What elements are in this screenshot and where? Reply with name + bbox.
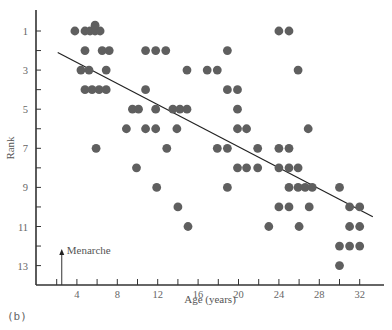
y-axis-title: Rank bbox=[4, 136, 16, 160]
y-tick-label: 1 bbox=[23, 26, 28, 37]
x-tick-label: 8 bbox=[115, 289, 120, 300]
menarche-annotation: Menarche bbox=[59, 244, 111, 285]
data-point bbox=[85, 66, 94, 75]
y-tick-label: 5 bbox=[23, 104, 28, 115]
data-point bbox=[285, 183, 294, 192]
y-tick-label: 7 bbox=[23, 143, 28, 154]
data-point bbox=[285, 163, 294, 172]
data-point bbox=[242, 163, 251, 172]
axes: 13579111348121620242832 bbox=[18, 10, 385, 300]
data-point bbox=[141, 124, 150, 133]
y-tick-label: 11 bbox=[18, 222, 28, 233]
data-point bbox=[223, 144, 232, 153]
data-point bbox=[233, 124, 242, 133]
data-point bbox=[102, 66, 111, 75]
data-point bbox=[141, 46, 150, 55]
data-point bbox=[285, 203, 294, 212]
data-point bbox=[242, 124, 251, 133]
data-point bbox=[162, 144, 171, 153]
data-point bbox=[223, 183, 232, 192]
x-tick-label: 4 bbox=[74, 289, 80, 300]
data-point bbox=[213, 66, 222, 75]
data-point bbox=[285, 27, 294, 36]
data-point bbox=[161, 46, 170, 55]
data-point bbox=[294, 163, 303, 172]
data-points bbox=[70, 21, 364, 270]
arrow-up-icon bbox=[59, 249, 64, 255]
data-point bbox=[172, 124, 181, 133]
data-point bbox=[77, 66, 86, 75]
data-point bbox=[122, 124, 131, 133]
data-point bbox=[233, 163, 242, 172]
data-point bbox=[151, 105, 160, 114]
y-tick-label: 9 bbox=[23, 182, 28, 193]
data-point bbox=[275, 27, 284, 36]
data-point bbox=[102, 85, 111, 94]
data-point bbox=[184, 222, 193, 231]
trend-line bbox=[58, 53, 373, 217]
data-point bbox=[275, 203, 284, 212]
data-point bbox=[92, 144, 101, 153]
data-point bbox=[151, 46, 160, 55]
data-point bbox=[253, 163, 262, 172]
data-point bbox=[70, 27, 79, 36]
data-point bbox=[105, 46, 114, 55]
menarche-label: Menarche bbox=[67, 244, 111, 256]
y-tick-label: 13 bbox=[18, 261, 29, 272]
data-point bbox=[213, 144, 222, 153]
data-point bbox=[285, 144, 294, 153]
data-point bbox=[275, 144, 284, 153]
x-tick-label: 32 bbox=[354, 289, 365, 300]
data-point bbox=[223, 46, 232, 55]
data-point bbox=[223, 85, 232, 94]
scatter-chart: Menarche 13579111348121620242832 Age (ye… bbox=[0, 0, 392, 310]
data-point bbox=[355, 203, 364, 212]
data-point bbox=[355, 242, 364, 251]
regression-line bbox=[58, 53, 373, 217]
data-point bbox=[335, 261, 344, 270]
data-point bbox=[264, 222, 273, 231]
data-point bbox=[134, 105, 143, 114]
data-point bbox=[304, 124, 313, 133]
data-point bbox=[141, 85, 150, 94]
x-tick-label: 24 bbox=[274, 289, 285, 300]
data-point bbox=[345, 222, 354, 231]
data-point bbox=[335, 242, 344, 251]
data-point bbox=[305, 203, 314, 212]
data-point bbox=[233, 105, 242, 114]
data-point bbox=[151, 124, 160, 133]
data-point bbox=[308, 183, 317, 192]
panel-label: (b) bbox=[7, 310, 27, 323]
data-point bbox=[233, 85, 242, 94]
data-point bbox=[275, 163, 284, 172]
y-tick-label: 3 bbox=[23, 65, 28, 76]
data-point bbox=[345, 242, 354, 251]
x-axis-title: Age (years) bbox=[184, 293, 236, 306]
data-point bbox=[295, 222, 304, 231]
data-point bbox=[183, 66, 192, 75]
data-point bbox=[152, 183, 161, 192]
data-point bbox=[335, 183, 344, 192]
data-point bbox=[174, 203, 183, 212]
data-point bbox=[203, 66, 212, 75]
data-point bbox=[132, 163, 141, 172]
data-point bbox=[253, 144, 262, 153]
data-point bbox=[345, 203, 354, 212]
data-point bbox=[294, 66, 303, 75]
x-tick-label: 12 bbox=[152, 289, 163, 300]
x-tick-label: 28 bbox=[314, 289, 325, 300]
data-point bbox=[81, 46, 90, 55]
data-point bbox=[355, 222, 364, 231]
data-point bbox=[183, 105, 192, 114]
data-point bbox=[91, 21, 100, 30]
